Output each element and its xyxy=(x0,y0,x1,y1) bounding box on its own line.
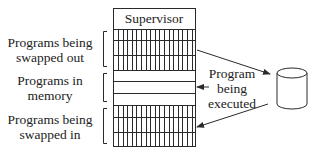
bracket-swapped-in xyxy=(104,109,108,144)
label-swapped-out-line2: swapped out xyxy=(0,50,100,65)
disk-cylinder-icon xyxy=(277,68,307,109)
swapped-in-block xyxy=(114,106,196,147)
label-in-memory-line2: memory xyxy=(0,88,100,103)
in-memory-block xyxy=(114,82,196,106)
bracket-swapped-out xyxy=(104,32,108,67)
bracket-in-memory xyxy=(104,74,108,102)
memory-column xyxy=(114,9,196,147)
label-program-executed-line2: being xyxy=(200,81,264,96)
label-in-memory-line1: Programs in xyxy=(0,73,100,88)
swapping-diagram: Supervisor Programs being swapped out Pr… xyxy=(0,0,324,157)
label-swapped-in-line1: Programs being xyxy=(0,112,100,127)
label-swapped-out-line1: Programs being xyxy=(0,35,100,50)
swapped-out-block xyxy=(114,30,196,71)
supervisor-label: Supervisor xyxy=(113,9,195,29)
label-program-executed-line1: Program xyxy=(200,66,264,81)
label-swapped-in-line2: swapped in xyxy=(0,127,100,142)
label-program-executed-line3: executed xyxy=(200,96,264,111)
